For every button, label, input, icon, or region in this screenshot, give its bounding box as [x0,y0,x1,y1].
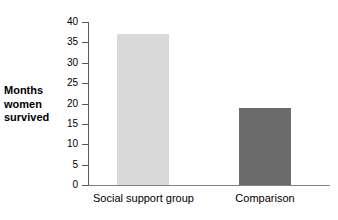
y-axis-tick-label-15: 15 [38,119,78,129]
x-axis-line [88,185,330,186]
y-axis-tick-0 [82,185,88,186]
y-axis-tick-label-40: 40 [38,17,78,27]
x-axis-label-comparison: Comparison [215,192,315,204]
y-axis-line [88,22,89,185]
y-axis-tick-label-30: 30 [38,58,78,68]
y-axis-tick-label-10: 10 [38,139,78,149]
bar-comparison [239,108,291,185]
y-axis-tick-label-25: 25 [38,78,78,88]
x-axis-label-social-support-group: Social support group [93,192,193,204]
y-axis-tick-label-35: 35 [38,37,78,47]
y-axis-tick-35 [82,42,88,43]
bar-chart: Months women survived 0510152025303540 S… [0,0,338,220]
y-axis-tick-label-0: 0 [38,180,78,190]
y-axis-tick-30 [82,63,88,64]
y-axis-tick-20 [82,104,88,105]
y-axis-tick-label-5: 5 [38,160,78,170]
y-axis-tick-10 [82,144,88,145]
y-axis-tick-40 [82,22,88,23]
y-axis-tick-label-20: 20 [38,99,78,109]
bar-social-support-group [117,34,169,185]
y-axis-tick-15 [82,124,88,125]
y-axis-tick-25 [82,83,88,84]
y-axis-tick-5 [82,165,88,166]
